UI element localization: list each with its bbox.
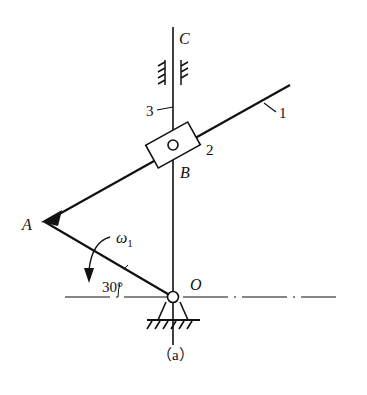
pin-O-icon xyxy=(168,292,179,303)
label-3: 3 xyxy=(146,103,154,119)
joint-A-icon xyxy=(41,210,62,226)
label-2: 2 xyxy=(206,142,214,158)
label-1: 1 xyxy=(279,105,287,121)
label-C: C xyxy=(179,30,190,47)
label-angle: 30° xyxy=(102,279,123,295)
arrowhead-icon xyxy=(84,268,94,283)
leader-3 xyxy=(157,107,173,110)
leader-1 xyxy=(264,103,276,112)
omega-symbol: ω xyxy=(116,229,127,246)
omega-subscript: 1 xyxy=(127,237,133,249)
pin-B-icon xyxy=(168,140,178,150)
label-O: O xyxy=(190,276,202,293)
caption: （a） xyxy=(157,347,194,363)
label-B: B xyxy=(180,164,190,181)
mechanism-diagram: C 3 1 2 B A O ω1 30° （a） xyxy=(0,0,367,395)
label-A: A xyxy=(21,216,32,233)
label-omega: ω1 xyxy=(116,229,133,249)
